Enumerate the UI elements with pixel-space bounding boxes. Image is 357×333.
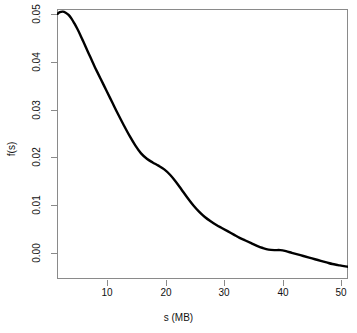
x-tick-label: 30 <box>204 288 244 298</box>
x-tick-label: 10 <box>87 288 127 298</box>
y-tick-mark <box>51 253 57 254</box>
x-tick-label: 50 <box>321 288 357 298</box>
density-curve-plot <box>57 9 348 279</box>
chart-figure: 0.00 0.01 0.02 0.03 0.04 0.05 10 20 30 4… <box>0 0 357 333</box>
y-tick-mark <box>51 62 57 63</box>
x-tick-mark <box>224 280 225 286</box>
y-tick-mark <box>51 157 57 158</box>
y-axis-title: f(s) <box>6 134 18 164</box>
y-tick-mark <box>51 205 57 206</box>
y-tick-mark <box>51 14 57 15</box>
x-tick-label: 20 <box>146 288 186 298</box>
y-tick-label: 0.05 <box>0 9 46 19</box>
y-tick-label: 0.01 <box>0 200 46 210</box>
x-tick-mark <box>107 280 108 286</box>
y-tick-label-text: 0.05 <box>31 4 41 23</box>
y-axis-title-text: f(s) <box>6 142 18 156</box>
density-curve <box>58 12 348 267</box>
y-tick-label-text: 0.04 <box>31 52 41 71</box>
x-tick-mark <box>166 280 167 286</box>
y-tick-mark <box>51 110 57 111</box>
y-tick-label-text: 0.00 <box>31 243 41 262</box>
x-tick-mark <box>341 280 342 286</box>
y-tick-label: 0.03 <box>0 105 46 115</box>
x-tick-label: 40 <box>263 288 303 298</box>
x-tick-mark <box>283 280 284 286</box>
y-tick-label: 0.04 <box>0 57 46 67</box>
y-tick-label-text: 0.03 <box>31 100 41 119</box>
y-tick-label: 0.00 <box>0 248 46 258</box>
y-tick-label-text: 0.02 <box>31 147 41 166</box>
y-tick-label-text: 0.01 <box>31 195 41 214</box>
x-axis-title: s (MB) <box>0 312 357 323</box>
